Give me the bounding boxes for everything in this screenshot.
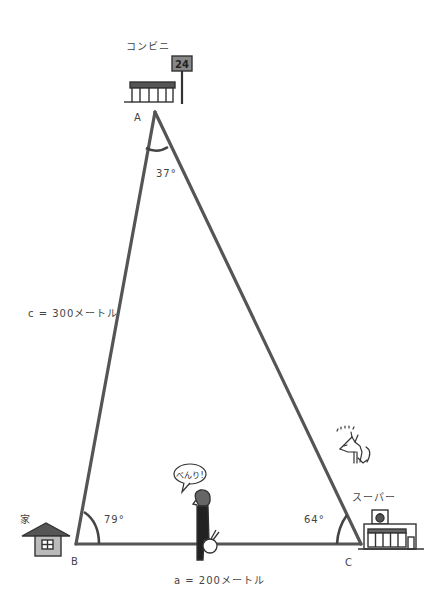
vertex-label-b: B: [71, 556, 79, 567]
speech-bubble-text: べんり!: [176, 471, 203, 480]
triangle: [76, 112, 361, 544]
side-label-a: a = 200メートル: [174, 572, 265, 587]
place-label-home: 家: [20, 511, 31, 526]
triangle-diagram: 24: [0, 0, 444, 613]
angle-label-c: 64°: [304, 514, 325, 525]
supermarket-icon: [358, 510, 424, 549]
vertex-label-c: C: [345, 557, 353, 568]
angle-label-a: 37°: [156, 168, 177, 179]
place-label-supermarket: スーパー: [352, 489, 396, 504]
side-ab: [76, 112, 155, 544]
house-icon: [22, 523, 70, 556]
angle-label-b: 79°: [104, 514, 125, 525]
place-label-convenience-store: コンビニ: [126, 38, 170, 53]
sign-24-text: 24: [175, 59, 189, 70]
dog-icon: [337, 426, 370, 463]
vertex-label-a: A: [134, 112, 142, 123]
side-label-c: c = 300メートル: [28, 305, 118, 320]
angle-arc-c: [337, 515, 347, 544]
person-icon: [193, 490, 219, 560]
angle-arc-b: [84, 512, 99, 544]
